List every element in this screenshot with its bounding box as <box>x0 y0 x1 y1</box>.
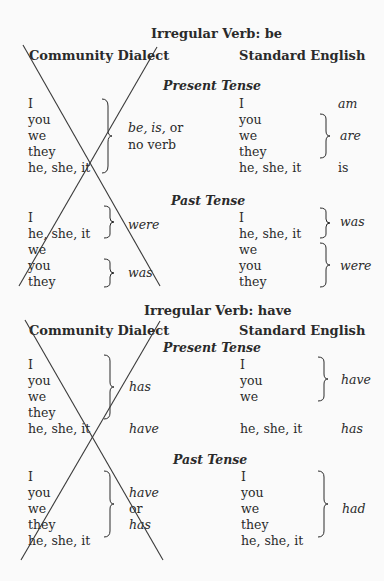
have-strike-line-2 <box>21 321 160 560</box>
have-strike-line-1 <box>25 320 163 560</box>
be-strike-line-1 <box>23 45 160 286</box>
be-strike-line-2 <box>19 47 157 286</box>
strikethrough-x-lines <box>0 0 384 581</box>
